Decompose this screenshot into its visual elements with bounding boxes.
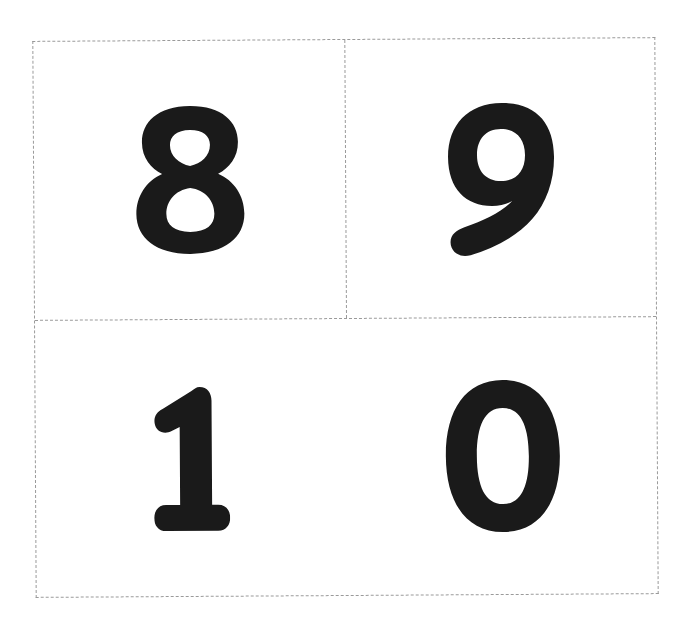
- number-card-1: 1: [35, 319, 348, 597]
- digit-8-glyph: [133, 104, 246, 257]
- number-card-8: 8: [33, 40, 346, 320]
- digit-0-glyph: [443, 378, 562, 535]
- number-card-9: 9: [345, 38, 656, 318]
- digit-1-glyph: [153, 383, 230, 533]
- number-cards-sheet: 8 9 1 0: [32, 37, 658, 598]
- number-card-0: 0: [347, 317, 658, 595]
- digit-9-glyph: [443, 99, 558, 258]
